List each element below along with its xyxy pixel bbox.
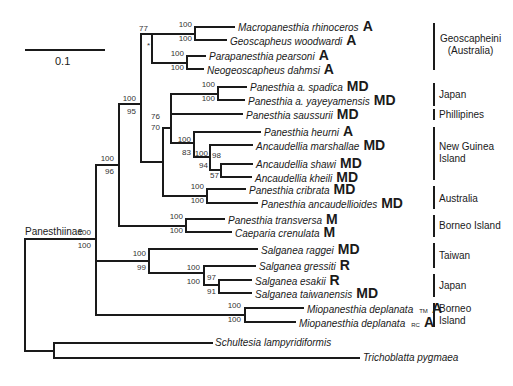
- branch: [148, 248, 258, 250]
- taxon-label: Panesthia cribrataMD: [249, 183, 355, 197]
- branch: [194, 26, 235, 28]
- region-label: Borneo Island: [439, 220, 501, 232]
- taxon-label: Salganea raggeiMD: [261, 243, 360, 257]
- region-bar: [433, 274, 435, 297]
- region-bar: [433, 23, 435, 70]
- support-value: 57: [195, 172, 219, 180]
- support-value: 100: [180, 197, 204, 205]
- support-value: 95: [112, 108, 136, 116]
- region-bar: [433, 83, 435, 106]
- support-value: 91: [192, 288, 216, 296]
- taxon-label: Geoscapheus woodwardiA: [230, 34, 356, 48]
- branch: [244, 307, 304, 309]
- branch: [118, 103, 141, 105]
- taxon-label: Trichoblatta pygmaea: [363, 352, 458, 364]
- branch: [220, 163, 253, 165]
- region-label: New Guinea Island: [439, 141, 494, 165]
- branch: [193, 131, 261, 133]
- region-label: Geoscapheini (Australia): [440, 33, 501, 57]
- taxon-label: Panesthia a. spadicaMD: [250, 80, 369, 94]
- taxon-label: Salganea esakiiR: [255, 274, 340, 288]
- big-clade-node: [118, 103, 120, 227]
- branch: [217, 86, 247, 88]
- support-value: 100: [160, 50, 184, 58]
- star-marker: *: [142, 42, 150, 50]
- branch: [194, 39, 227, 41]
- region-label: Australia: [439, 193, 478, 205]
- branch: [209, 144, 253, 146]
- scale-bar: [25, 49, 105, 51]
- branch: [185, 218, 225, 220]
- branch: [170, 113, 243, 115]
- branch: [203, 284, 219, 286]
- branch: [217, 99, 245, 101]
- geoscapheini-node: [151, 33, 153, 63]
- branch: [95, 260, 149, 262]
- region-bar: [433, 215, 435, 237]
- support-value: 100: [122, 250, 146, 258]
- taxon-label: Salganea gressitiR: [259, 259, 350, 273]
- panesthia-core-node: [162, 127, 164, 197]
- taxon-label: Panesthia a. yayeyamensisMD: [248, 94, 396, 108]
- support-value: 98: [197, 152, 221, 160]
- support-value: 100: [217, 302, 241, 310]
- region-label: Japan: [439, 280, 466, 292]
- taxon-label: Panesthia saussuriiMD: [246, 108, 359, 122]
- region-bar: [433, 243, 435, 268]
- support-value: 100: [180, 183, 204, 191]
- branch: [206, 202, 258, 204]
- branch: [53, 342, 213, 344]
- support-value: 94: [184, 162, 208, 170]
- support-value: 100: [168, 21, 192, 29]
- region-bar: [433, 127, 435, 180]
- support-value: 100: [191, 95, 215, 103]
- phylogenetic-tree: 0.1 Panesthiinae 100 100 100 96 100 95 7…: [0, 0, 513, 386]
- taxon-label: Panesthia heurniA: [264, 125, 353, 139]
- taxon-label: Miopanesthia deplanataRCA: [299, 316, 434, 331]
- taxon-label: Panesthia ancaudellioidesMD: [261, 197, 403, 211]
- scale-bar-label: 0.1: [55, 55, 70, 67]
- region-bar: [433, 186, 435, 209]
- support-value: 99: [122, 264, 146, 272]
- support-value: 70: [136, 124, 160, 132]
- branch: [220, 176, 252, 178]
- support-value: 100: [160, 64, 184, 72]
- branch: [24, 350, 54, 352]
- support-value: 97: [192, 274, 216, 282]
- taxon-label: Caeparia crenulataM: [235, 226, 335, 240]
- branch: [24, 238, 96, 240]
- support-value: 100: [159, 227, 183, 235]
- support-value: 96: [90, 168, 114, 176]
- support-value: 100: [67, 242, 91, 250]
- support-value: 100: [168, 35, 192, 43]
- branch: [53, 357, 360, 359]
- branch: [203, 265, 256, 267]
- region-label: Borneo Island: [439, 303, 471, 327]
- support-value: 100: [90, 155, 114, 163]
- root-node: [24, 238, 26, 352]
- support-value: 76: [136, 113, 160, 121]
- region-label: Taiwan: [439, 250, 470, 262]
- region-label: Japan: [439, 89, 466, 101]
- branch: [140, 161, 163, 163]
- support-value: 100: [159, 213, 183, 221]
- taxon-label: Panesthia transversaM: [228, 213, 338, 227]
- support-value: 100: [112, 95, 136, 103]
- region-label: Phillipines: [439, 109, 484, 121]
- region-bar: [433, 303, 435, 327]
- support-value: 100: [217, 316, 241, 324]
- salganea-node: [148, 248, 150, 274]
- branch: [95, 164, 119, 166]
- branch: [186, 55, 206, 57]
- taxon-label: Salganea taiwanensisMD: [255, 287, 378, 301]
- branch: [185, 231, 232, 233]
- branch: [186, 68, 204, 70]
- geo-panesthia-node: [140, 33, 142, 163]
- branch: [218, 292, 252, 294]
- region-bar: [433, 109, 435, 120]
- taxon-label: Neogeoscapheus dahmsiA: [207, 63, 334, 77]
- taxon-label: Ancaudellia marshallaeMD: [256, 139, 385, 153]
- taxon-label: Schultesia lampyridiformis: [215, 337, 331, 349]
- support-value: 100: [67, 229, 91, 237]
- taxon-label: Parapanesthia pearsoniA: [209, 49, 329, 63]
